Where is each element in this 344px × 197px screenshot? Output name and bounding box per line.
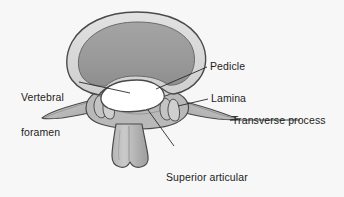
spinous-process bbox=[112, 124, 148, 167]
label-vertebral-foramen-line2: foramen bbox=[21, 127, 64, 139]
vertebra-diagram-figure: Vertebral foramen Pedicle Lamina Transve… bbox=[0, 0, 344, 197]
label-pedicle: Pedicle bbox=[210, 61, 245, 73]
label-superior-articular-process: Superior articular process bbox=[166, 149, 248, 197]
label-vertebral-foramen-line1: Vertebral bbox=[21, 92, 64, 104]
label-lamina: Lamina bbox=[211, 93, 246, 105]
label-transverse-process: Transverse process bbox=[232, 115, 326, 127]
label-superior-articular-process-line1: Superior articular bbox=[166, 172, 248, 184]
label-vertebral-foramen: Vertebral foramen bbox=[21, 69, 64, 161]
